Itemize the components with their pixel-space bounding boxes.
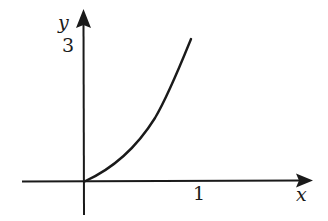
- curve-line: [85, 39, 192, 182]
- x-axis-line: [22, 181, 300, 182]
- chart-canvas: [0, 0, 328, 221]
- y-tick-label-3: 3: [62, 36, 74, 55]
- x-axis-label: x: [296, 185, 307, 204]
- y-axis-line: [84, 25, 85, 215]
- y-axis-label: y: [58, 13, 69, 32]
- x-tick-label-1: 1: [193, 184, 205, 203]
